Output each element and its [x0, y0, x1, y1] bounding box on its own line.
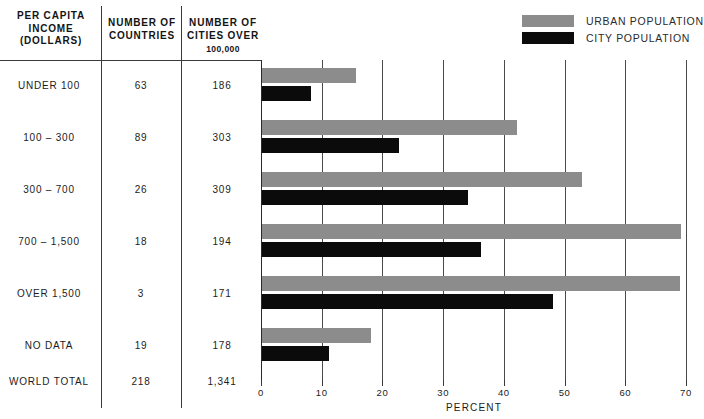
bar-city-population-row-0: [262, 86, 311, 101]
x-tick-60: [625, 380, 626, 386]
x-tick-label-60: 60: [619, 387, 631, 398]
row-cities-6: 1,341: [183, 375, 261, 386]
x-tick-10: [322, 380, 323, 386]
legend-item-city-population: CITY POPULATION: [522, 31, 697, 45]
x-axis-title: PERCENT: [261, 402, 687, 413]
chart-legend: URBAN POPULATION CITY POPULATION: [522, 14, 697, 48]
plot-area: [261, 60, 687, 380]
bar-urban-population-row-5: [262, 328, 371, 343]
row-label-3: 700 – 1,500: [0, 235, 98, 246]
row-countries-3: 18: [103, 235, 179, 246]
x-tick-label-70: 70: [680, 387, 692, 398]
header-underline: [0, 60, 262, 61]
row-label-0: UNDER 100: [0, 79, 98, 90]
column-header-line-1: NUMBER OF: [189, 17, 257, 28]
column-header-line-1: PER CAPITA: [17, 10, 85, 21]
row-countries-2: 26: [103, 183, 179, 194]
legend-item-urban-population: URBAN POPULATION: [522, 14, 697, 28]
bar-city-population-row-3: [262, 242, 481, 257]
x-tick-label-40: 40: [498, 387, 510, 398]
column-divider-2: [181, 6, 182, 408]
row-label-1: 100 – 300: [0, 131, 98, 142]
column-header-line-3: (DOLLARS): [20, 35, 82, 46]
column-header-line-2: CITIES OVER: [187, 30, 259, 41]
x-tick-20: [382, 380, 383, 386]
bar-city-population-row-5: [262, 346, 329, 361]
column-header-line-2: INCOME: [29, 23, 74, 34]
legend-swatch-city-population: [522, 32, 574, 44]
table-header: PER CAPITA INCOME (DOLLARS) NUMBER OF CO…: [0, 4, 262, 60]
row-label-6: WORLD TOTAL: [0, 375, 98, 386]
row-cities-0: 186: [183, 79, 261, 90]
gridline-60: [625, 60, 626, 380]
row-countries-5: 19: [103, 339, 179, 350]
x-tick-label-50: 50: [559, 387, 571, 398]
column-divider-1: [101, 6, 102, 408]
x-tick-label-20: 20: [377, 387, 389, 398]
x-tick-30: [443, 380, 444, 386]
x-tick-70: [686, 380, 687, 386]
gridline-50: [565, 60, 566, 380]
legend-label-urban-population: URBAN POPULATION: [586, 15, 704, 27]
bar-city-population-row-2: [262, 190, 468, 205]
bar-urban-population-row-3: [262, 224, 681, 239]
column-header-subtext: 100,000: [184, 43, 262, 56]
gridline-70: [686, 60, 687, 380]
x-tick-0: [261, 380, 262, 386]
column-header-number-of-countries: NUMBER OF COUNTRIES: [104, 17, 180, 42]
bar-urban-population-row-0: [262, 68, 356, 83]
column-header-per-capita-income: PER CAPITA INCOME (DOLLARS): [2, 10, 100, 48]
row-countries-4: 3: [103, 287, 179, 298]
column-header-line-1: NUMBER OF: [108, 17, 176, 28]
row-countries-6: 218: [103, 375, 179, 386]
row-countries-0: 63: [103, 79, 179, 90]
legend-swatch-urban-population: [522, 15, 574, 27]
bar-urban-population-row-2: [262, 172, 582, 187]
row-countries-1: 89: [103, 131, 179, 142]
legend-label-city-population: CITY POPULATION: [586, 32, 690, 44]
row-cities-4: 171: [183, 287, 261, 298]
x-tick-40: [504, 380, 505, 386]
row-label-5: NO DATA: [0, 339, 98, 350]
row-cities-2: 309: [183, 183, 261, 194]
bar-city-population-row-1: [262, 138, 399, 153]
gridline-30: [443, 60, 444, 380]
row-cities-1: 303: [183, 131, 261, 142]
row-cities-3: 194: [183, 235, 261, 246]
bar-city-population-row-4: [262, 294, 553, 309]
x-tick-label-0: 0: [258, 387, 264, 398]
column-header-number-of-cities: NUMBER OF CITIES OVER 100,000: [184, 17, 262, 56]
gridline-40: [504, 60, 505, 380]
row-label-2: 300 – 700: [0, 183, 98, 194]
x-tick-label-30: 30: [437, 387, 449, 398]
bar-urban-population-row-4: [262, 276, 680, 291]
x-tick-50: [565, 380, 566, 386]
x-tick-label-10: 10: [316, 387, 328, 398]
gridline-20: [382, 60, 383, 380]
row-label-4: OVER 1,500: [0, 287, 98, 298]
column-header-line-2: COUNTRIES: [109, 30, 175, 41]
x-axis: 010203040506070 PERCENT: [261, 380, 687, 419]
bar-urban-population-row-1: [262, 120, 517, 135]
row-cities-5: 178: [183, 339, 261, 350]
